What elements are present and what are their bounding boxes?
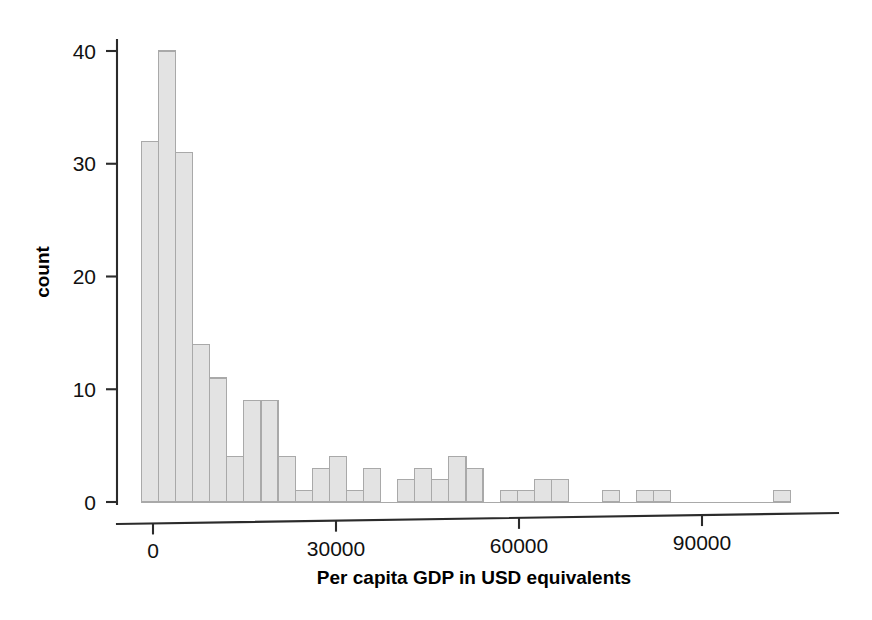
histogram-bar [603,491,620,502]
y-axis-title: count [32,245,53,297]
x-axis-title: Per capita GDP in USD equivalents [317,567,631,588]
histogram-bar [261,401,278,502]
histogram-bar [432,479,449,502]
histogram-bar [500,491,517,502]
histogram-bar [637,491,654,502]
plot-background [0,0,872,620]
histogram-bar [244,401,261,502]
histogram-bar [176,152,193,502]
histogram-bar [278,457,295,502]
histogram-bar [517,491,534,502]
histogram-bar [551,479,568,502]
histogram-bar [158,51,175,502]
histogram-figure: 010203040 0300006000090000 Per capita GD… [0,0,872,620]
histogram-bar [654,491,671,502]
histogram-bar [415,468,432,502]
y-tick-label: 0 [84,491,96,514]
histogram-bar [295,491,312,502]
histogram-bar [210,378,227,502]
histogram-bar [346,491,363,502]
histogram-bar [449,457,466,502]
histogram-plot: 010203040 0300006000090000 Per capita GD… [0,0,872,620]
x-tick-label: 60000 [490,534,548,557]
x-tick-label: 0 [147,539,159,562]
histogram-bar [398,479,415,502]
x-tick-label: 30000 [307,537,365,560]
histogram-bar [466,468,483,502]
histogram-bar [227,457,244,502]
y-tick-label: 30 [73,152,96,175]
y-tick-label: 20 [73,265,96,288]
histogram-bar [773,491,790,502]
histogram-bar [141,141,158,502]
x-tick-label: 90000 [673,531,731,554]
histogram-bar [312,468,329,502]
histogram-bar [329,457,346,502]
y-tick-label: 40 [73,40,96,63]
histogram-bar [363,468,380,502]
y-tick-label: 10 [73,378,96,401]
histogram-bar [534,479,551,502]
histogram-bar [193,344,210,502]
